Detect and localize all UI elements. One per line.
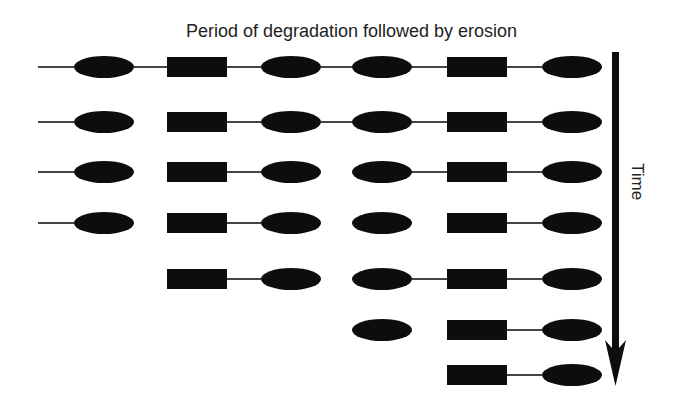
rect-node-R2 [447, 320, 507, 340]
rect-node-R2 [447, 213, 507, 233]
time-axis-label: Time [627, 163, 647, 193]
ellipse-node-E4 [542, 161, 602, 183]
ellipse-node-E2 [261, 56, 321, 78]
stage-row-1 [38, 56, 602, 78]
ellipse-node-E2 [261, 111, 321, 133]
rect-node-R2 [447, 365, 507, 385]
stage-row-3 [38, 161, 602, 183]
stage-row-2 [38, 111, 602, 133]
rect-node-R2 [447, 112, 507, 132]
degradation-erosion-diagram: Period of degradation followed by erosio… [0, 0, 685, 406]
rect-node-R1 [167, 162, 227, 182]
ellipse-node-E3 [352, 161, 412, 183]
stage-row-5 [167, 268, 602, 290]
rect-node-R1 [167, 213, 227, 233]
ellipse-node-E2 [261, 212, 321, 234]
ellipse-node-E2 [261, 268, 321, 290]
rect-node-R1 [167, 269, 227, 289]
ellipse-node-E1 [74, 111, 134, 133]
ellipse-node-E3 [352, 212, 412, 234]
stage-row-6 [352, 319, 602, 341]
ellipse-node-E1 [74, 56, 134, 78]
time-arrow-icon [605, 52, 626, 386]
rect-node-R2 [447, 269, 507, 289]
diagram-title: Period of degradation followed by erosio… [0, 21, 685, 42]
rect-node-R2 [447, 162, 507, 182]
ellipse-node-E3 [352, 111, 412, 133]
stage-row-7 [447, 364, 602, 386]
rect-node-R1 [167, 57, 227, 77]
ellipse-node-E1 [74, 212, 134, 234]
ellipse-node-E4 [542, 56, 602, 78]
ellipse-node-E4 [542, 212, 602, 234]
ellipse-node-E1 [74, 161, 134, 183]
ellipse-node-E4 [542, 319, 602, 341]
rows-layer [38, 56, 602, 386]
ellipse-node-E3 [352, 319, 412, 341]
rect-node-R2 [447, 57, 507, 77]
ellipse-node-E3 [352, 268, 412, 290]
rect-node-R1 [167, 112, 227, 132]
ellipse-node-E2 [261, 161, 321, 183]
ellipse-node-E3 [352, 56, 412, 78]
ellipse-node-E4 [542, 268, 602, 290]
ellipse-node-E4 [542, 364, 602, 386]
stage-row-4 [38, 212, 602, 234]
diagram-canvas [0, 0, 685, 406]
ellipse-node-E4 [542, 111, 602, 133]
